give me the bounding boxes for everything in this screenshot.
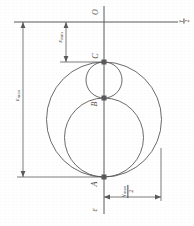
epsilon-min-label: εmin (57, 32, 64, 43)
epsilon-min-symbol: ε (56, 40, 64, 43)
gamma-max-half-label: γmax 2 (118, 185, 135, 198)
mohr-circle-figure (0, 0, 194, 226)
point-marker-b (102, 96, 107, 101)
point-label-c: C (92, 53, 100, 58)
horizontal-axis-label-denominator: 2 (184, 19, 190, 24)
arrowhead-up (64, 22, 69, 28)
gamma-subscript: max (122, 186, 127, 195)
epsilon-min-dimension (64, 22, 69, 62)
gamma-symbol: γ (120, 194, 126, 197)
extension-lines-group (17, 62, 161, 201)
epsilon-max-subscript: max (16, 90, 21, 99)
horizontal-axis-label-numerator: γ (177, 19, 184, 24)
arrowhead-down (64, 56, 69, 62)
vertical-axis-label: ε (91, 208, 99, 211)
arrowhead-right (155, 195, 161, 200)
arrowhead-up (21, 22, 26, 28)
gamma-max-half-numerator: γmax (120, 185, 128, 198)
horizontal-axis-label: γ 2 (174, 19, 190, 24)
arrowhead-left (104, 195, 110, 200)
epsilon-max-dimension (21, 22, 26, 177)
gamma-max-half-denominator: 2 (129, 185, 135, 198)
point-label-a: A (91, 182, 99, 187)
arrowhead-down (21, 171, 26, 177)
epsilon-max-symbol: ε (13, 98, 21, 101)
epsilon-min-subscript: min (59, 32, 64, 40)
epsilon-max-label: εmax (14, 90, 21, 101)
point-label-o: O (92, 9, 100, 15)
point-label-b: B (91, 102, 99, 107)
